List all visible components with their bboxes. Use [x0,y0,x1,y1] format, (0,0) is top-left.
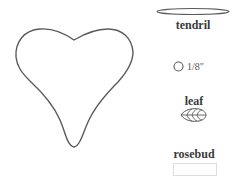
leaf-label: leaf [175,95,213,107]
leaf-icon [179,107,207,123]
tendril-shape [154,6,232,18]
circle-size-label: 1/8" [187,62,204,72]
heart-shape [0,0,140,160]
circle-shape [173,61,185,73]
tendril-label: tendril [163,19,223,31]
rosebud-box [173,163,217,176]
rosebud-label: rosebud [168,148,220,160]
heart-outline [16,29,133,147]
